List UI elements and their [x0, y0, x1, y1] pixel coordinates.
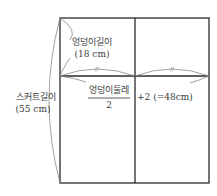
hip-length-value: (18 cm) — [67, 49, 117, 60]
hip-circ-brace-left — [60, 76, 86, 82]
equal-mark-left: // — [95, 65, 100, 72]
equal-mark-right: // — [170, 65, 175, 72]
hip-circ-numerator: 엉덩이둘레 — [88, 85, 130, 96]
hip-length-label: 엉덩이길이 — [67, 37, 117, 48]
hip-circ-suffix: +2 (=48cm) — [137, 92, 193, 103]
skirt-length-value: (55 cm) — [12, 104, 54, 115]
hip-circ-brace-right — [190, 76, 209, 83]
skirt-length-label: 스커트길이 — [12, 92, 60, 103]
hip-circ-denominator: 2 — [88, 100, 130, 111]
